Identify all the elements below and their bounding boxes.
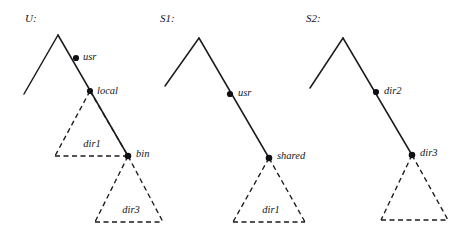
tree-U-node-usr-dot xyxy=(73,55,79,61)
tree-S1-left-leg xyxy=(165,38,199,86)
tree-U-node-label-local: local xyxy=(97,85,118,96)
tree-S2-node-label-dir2: dir2 xyxy=(384,85,402,96)
tree-S2-spine xyxy=(343,38,412,155)
tree-caption-U: U: xyxy=(25,12,37,24)
tree-S2-node-dir2-dot xyxy=(373,89,379,95)
tree-S1-node-label-shared: shared xyxy=(277,150,306,161)
tree-S2-dir3-right-side xyxy=(412,155,448,220)
tree-S1: S1: dir1 usr shared xyxy=(160,12,306,222)
tree-caption-S2: S2: xyxy=(306,12,321,24)
tree-S2-node-label-dir3: dir3 xyxy=(420,147,438,158)
tree-U-node-label-usr: usr xyxy=(83,51,97,62)
tree-S2-left-leg xyxy=(310,38,343,88)
tree-U-region-label-dir3: dir3 xyxy=(122,204,140,215)
tree-U-node-local-dot xyxy=(87,88,93,94)
tree-U-region-label-dir1: dir1 xyxy=(83,138,101,149)
tree-S1-spine xyxy=(199,38,269,158)
tree-U: U: dir1 dir3 usr local bin xyxy=(24,12,163,222)
tree-S2-dir3-left-side xyxy=(381,155,412,220)
tree-S1-node-label-usr: usr xyxy=(238,87,252,98)
tree-U-node-label-bin: bin xyxy=(136,148,149,159)
tree-S2-node-dir3-dot xyxy=(409,152,416,159)
tree-S1-node-usr-dot xyxy=(227,91,233,97)
tree-S2: S2: dir2 dir3 xyxy=(306,12,448,220)
tree-S1-node-shared-dot xyxy=(266,155,273,162)
tree-caption-S1: S1: xyxy=(160,12,175,24)
tree-S1-region-label-dir1: dir1 xyxy=(262,204,280,215)
tree-U-node-bin-dot xyxy=(125,153,132,160)
tree-U-left-leg xyxy=(24,35,58,94)
namespace-tree-figure: U: dir1 dir3 usr local bin S1: dir1 usr xyxy=(0,0,468,231)
